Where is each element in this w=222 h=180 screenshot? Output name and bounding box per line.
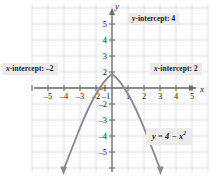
callout-y-intercept: y-intercept: 4 xyxy=(128,13,179,25)
coordinate-plane: –5 –4 –3 –2 –1 1 2 3 4 5 5 4 3 2 –1 –2 –… xyxy=(0,0,222,180)
x-axis-label: x xyxy=(199,84,204,94)
callout-x-intercept-negative: x-intercept: –2 xyxy=(2,63,58,75)
callout-equation-text: y = 4 − x xyxy=(152,132,183,141)
callout-x-intercept-positive-text: -intercept: 2 xyxy=(158,64,198,73)
x-tick-label: –4 xyxy=(59,92,69,101)
y-tick-label: 5 xyxy=(103,20,107,29)
callout-equation-exponent: 2 xyxy=(183,130,186,136)
y-tick-label: –2 xyxy=(98,100,107,109)
x-tick-label: 2 xyxy=(142,92,146,101)
x-tick-label: –3 xyxy=(75,92,84,101)
y-tick-label: –4 xyxy=(98,132,108,141)
graph-figure: –5 –4 –3 –2 –1 1 2 3 4 5 5 4 3 2 –1 –2 –… xyxy=(0,0,222,180)
callout-equation: y = 4 − x2 xyxy=(146,128,192,145)
callout-x-intercept-positive: x-intercept: 2 xyxy=(150,63,202,75)
y-tick-label: –3 xyxy=(98,116,107,125)
y-axis-label: y xyxy=(114,1,119,11)
y-tick-label: 3 xyxy=(103,52,107,61)
x-tick-label: –5 xyxy=(43,92,52,101)
y-tick-label: –5 xyxy=(98,148,107,157)
y-tick-label: 2 xyxy=(103,68,107,77)
callout-x-intercept-negative-text: -intercept: –2 xyxy=(10,64,54,73)
x-tick-label: 5 xyxy=(190,92,194,101)
callout-y-intercept-text: -intercept: 4 xyxy=(135,14,175,23)
x-tick-label: 3 xyxy=(158,92,162,101)
